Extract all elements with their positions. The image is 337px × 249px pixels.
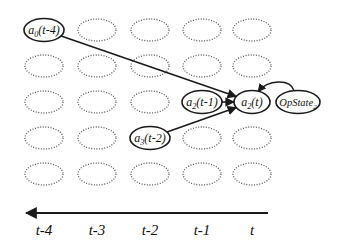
- placeholder-node: [233, 55, 271, 77]
- placeholder-node: [131, 163, 169, 185]
- placeholder-node: [78, 55, 116, 77]
- node-a2_t-1: a2(t-1): [182, 91, 222, 114]
- time-label-t-4: t-4: [36, 222, 53, 238]
- placeholder-node: [131, 19, 169, 41]
- placeholder-node: [183, 163, 221, 185]
- placeholder-node: [25, 163, 63, 185]
- node-a3_t-2: a3(t-2): [130, 127, 170, 150]
- placeholder-node: [233, 163, 271, 185]
- placeholder-node: [183, 127, 221, 149]
- node-label: a3(t-2): [134, 131, 165, 147]
- time-label-t-3: t-3: [89, 222, 106, 238]
- node-opstate2: OpState2: [276, 91, 320, 114]
- node-a2_t: a2(t): [234, 91, 270, 114]
- placeholder-node: [25, 127, 63, 149]
- placeholder-node: [78, 163, 116, 185]
- time-label-t-2: t-2: [142, 222, 159, 238]
- placeholder-node: [183, 55, 221, 77]
- node-a0_t-4: a0(t-4): [24, 19, 64, 42]
- placeholder-node: [233, 127, 271, 149]
- placeholder-node: [78, 127, 116, 149]
- placeholder-node: [78, 19, 116, 41]
- placeholder-node: [131, 91, 169, 113]
- time-axis: t-4t-3t-2t-1t: [26, 213, 268, 238]
- placeholder-node: [233, 19, 271, 41]
- placeholder-node: [25, 55, 63, 77]
- node-label: a2(t-1): [186, 95, 217, 111]
- time-label-t: t: [250, 222, 255, 238]
- node-label: a2(t): [241, 95, 262, 111]
- dependency-edges: [61, 36, 294, 132]
- placeholder-node: [78, 91, 116, 113]
- placeholder-node: [183, 19, 221, 41]
- temporal-dependency-diagram: a0(t-4)a2(t-1)a2(t)a3(t-2)OpState2 t-4t-…: [0, 0, 337, 249]
- node-label: a0(t-4): [28, 23, 59, 39]
- placeholder-node: [25, 91, 63, 113]
- time-label-t-1: t-1: [194, 222, 211, 238]
- edge-a0_t-4-to-a2_t: [61, 36, 236, 97]
- edge-opstate2-to-a2_t: [258, 82, 294, 92]
